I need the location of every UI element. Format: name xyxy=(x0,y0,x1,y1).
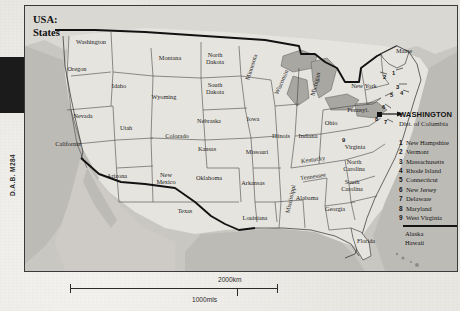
legend-state-name: Massachusetts xyxy=(406,157,444,166)
legend-row: 1New Hampshire xyxy=(399,138,458,147)
scale-miles-tick-end xyxy=(237,288,238,296)
legend-row: 7Delaware xyxy=(399,194,458,203)
state-label: Louisiana xyxy=(243,214,268,221)
legend-state-name: Maryland xyxy=(406,204,432,213)
legend-noncontiguous-item: Hawaii xyxy=(405,239,424,248)
legend-row: 4Rhode Island xyxy=(399,166,458,175)
legend-state-name: New Jersey xyxy=(406,185,437,194)
state-label: Wyoming xyxy=(152,93,177,100)
legend-number: 4 xyxy=(399,166,406,175)
state-label: Pennsyl. xyxy=(347,106,369,113)
legend-numbered-states: 1New Hampshire2Vermont3Massachusetts4Rho… xyxy=(399,138,458,222)
map-reference-code: D.A.B. M284 xyxy=(9,134,16,196)
state-label: NewMexico xyxy=(156,172,175,185)
legend-noncontiguous-item: Alaska xyxy=(405,230,424,239)
legend-number: 3 xyxy=(399,157,406,166)
map-title: USA: States xyxy=(33,13,60,39)
capital-callout: WASHINGTON Dist. of Columbia xyxy=(399,110,458,127)
state-label: Kansas xyxy=(198,145,216,152)
state-label: Maine xyxy=(396,47,412,54)
state-label: Oklahoma xyxy=(196,174,222,181)
state-label: Texas xyxy=(178,207,193,214)
legend-row: 9West Virginia xyxy=(399,213,458,222)
state-label: New York xyxy=(351,82,377,89)
legend-number: 7 xyxy=(399,194,406,203)
legend-noncontiguous-states: AlaskaHawaii xyxy=(405,230,424,248)
state-label: Missouri xyxy=(246,148,268,155)
legend-number: 1 xyxy=(399,138,406,147)
legend-row: 2Vermont xyxy=(399,147,458,156)
state-label: Oregon xyxy=(68,65,87,72)
legend-state-name: Connecticut xyxy=(406,175,438,184)
map-title-line1: USA: xyxy=(33,13,60,26)
scale-miles-line xyxy=(70,288,238,289)
state-label: Ohio xyxy=(325,119,338,126)
legend-number: 2 xyxy=(399,147,406,156)
state-number-marker: 2 xyxy=(383,74,386,80)
state-label: NorthDakota xyxy=(206,52,224,65)
state-label: Illinois xyxy=(272,132,290,139)
state-label: Arkansas xyxy=(241,179,264,186)
state-label: Arizona xyxy=(107,172,127,179)
state-number-marker: 1 xyxy=(392,70,395,76)
state-label: California xyxy=(55,140,81,147)
scale-km-tick-end xyxy=(277,284,278,293)
state-label: Colorado xyxy=(165,132,188,139)
state-label: SouthDakota xyxy=(206,82,224,95)
legend-number: 8 xyxy=(399,204,406,213)
state-label: SouthCarolina xyxy=(341,179,363,192)
state-label: Nebraska xyxy=(197,117,221,124)
state-label: Washington xyxy=(76,38,106,45)
scale-miles-label: 1000mls xyxy=(192,296,217,303)
state-label: Florida xyxy=(357,237,375,244)
state-label: Virginia xyxy=(345,143,366,150)
state-label: Georgia xyxy=(325,205,345,212)
state-label: Iowa xyxy=(247,115,260,122)
legend-state-name: New Hampshire xyxy=(406,138,449,147)
state-label: Indiana xyxy=(299,132,318,139)
state-number-marker: 4 xyxy=(400,90,403,96)
map-page: D.A.B. M284 xyxy=(0,0,460,311)
legend-state-name: Rhode Island xyxy=(406,166,441,175)
legend-number: 6 xyxy=(399,185,406,194)
capital-subtitle: Dist. of Columbia xyxy=(399,120,458,127)
legend-number: 5 xyxy=(399,175,406,184)
state-label: Nevada xyxy=(73,112,92,119)
scale-bars: 2000km 1000mls xyxy=(70,276,330,306)
legend-divider xyxy=(403,225,458,227)
state-number-marker: 8 xyxy=(375,116,378,122)
map-graphic xyxy=(25,6,457,271)
map-title-line2: States xyxy=(33,26,60,39)
legend-row: 3Massachusetts xyxy=(399,157,458,166)
state-label: Utah xyxy=(120,124,132,131)
map-frame: USA: States WashingtonOregonIdahoMontana… xyxy=(24,5,458,272)
state-number-marker: 6 xyxy=(382,104,385,110)
legend-row: 8Maryland xyxy=(399,204,458,213)
legend-state-name: Vermont xyxy=(406,147,429,156)
legend-row: 6New Jersey xyxy=(399,185,458,194)
legend-number: 9 xyxy=(399,213,406,222)
state-label: Alabama xyxy=(296,194,319,201)
capital-name: WASHINGTON xyxy=(399,110,458,119)
legend-row: 5Connecticut xyxy=(399,175,458,184)
state-label: NorthCarolina xyxy=(343,159,365,172)
state-number-marker: 5 xyxy=(390,92,393,98)
state-number-marker: 3 xyxy=(396,84,399,90)
state-number-marker: 7 xyxy=(384,119,387,125)
scale-km-label: 2000km xyxy=(218,276,241,283)
state-label: Montana xyxy=(159,54,181,61)
legend-state-name: Delaware xyxy=(406,194,431,203)
state-label: Idaho xyxy=(112,82,126,89)
page-marker-tab xyxy=(0,57,24,113)
legend-state-name: West Virginia xyxy=(406,213,442,222)
state-number-marker: 9 xyxy=(342,137,345,143)
